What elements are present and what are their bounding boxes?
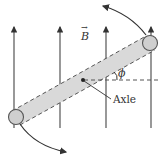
diagram-canvas: → B ϕ Axle: [0, 0, 163, 168]
axle-leader: [84, 81, 111, 99]
field-label: B: [80, 30, 89, 43]
axle-label: Axle: [112, 93, 136, 105]
sphere-right: [143, 36, 158, 51]
sphere-left: [9, 110, 24, 125]
rotation-arrow-top: [103, 6, 146, 35]
angle-label: ϕ: [118, 67, 126, 80]
rotation-arrow-bottom: [20, 124, 66, 152]
angle-arc: [114, 72, 117, 80]
